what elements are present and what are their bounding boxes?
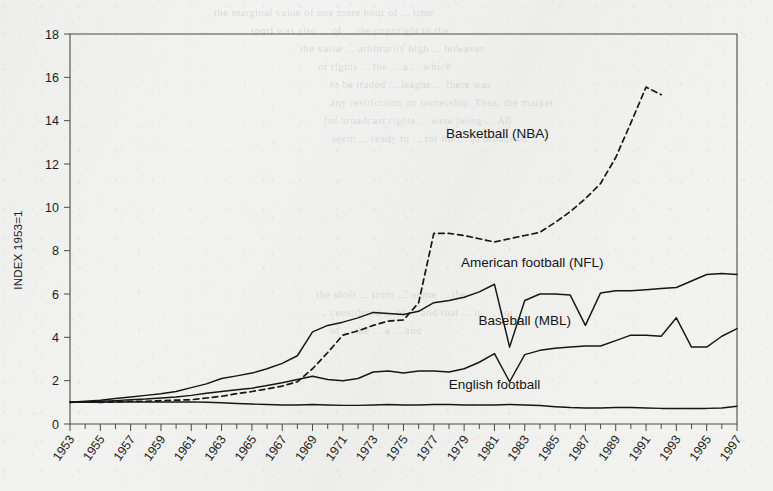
x-tick-label-1987: 1987 [565, 433, 592, 464]
x-tick-label-1977: 1977 [414, 433, 441, 464]
x-tick-label-1953: 1953 [50, 433, 77, 464]
x-tick-label-1967: 1967 [262, 433, 289, 464]
x-tick-label-1969: 1969 [293, 433, 320, 464]
x-tick-label-1973: 1973 [353, 433, 380, 464]
x-tick-label-1979: 1979 [444, 433, 471, 464]
x-tick-label-1983: 1983 [505, 433, 532, 464]
chart-page: the marginal value of one more hour of .… [0, 0, 773, 491]
x-tick-label-1965: 1965 [232, 433, 259, 464]
y-tick-label-12: 12 [45, 158, 59, 172]
x-tick-label-1989: 1989 [596, 433, 623, 464]
x-tick-label-1961: 1961 [171, 433, 198, 464]
x-tick-label-1963: 1963 [202, 433, 229, 464]
series-line-basketball-nba [70, 87, 661, 402]
x-tick-label-1981: 1981 [474, 433, 501, 464]
series-label-baseball-mbl: Baseball (MBL) [479, 313, 571, 328]
y-axis-title: INDEX 1953=1 [12, 210, 24, 289]
x-tick-label-1991: 1991 [626, 433, 653, 464]
y-tick-label-6: 6 [52, 288, 59, 302]
x-tick-label-1993: 1993 [656, 433, 683, 464]
data-series-group [70, 87, 737, 408]
x-axis: 1953195519571959196119631965196719691971… [50, 424, 744, 464]
series-line-baseball-mbl [70, 318, 737, 403]
x-tick-label-1955: 1955 [80, 433, 107, 464]
y-tick-label-14: 14 [45, 114, 59, 128]
x-tick-label-1975: 1975 [384, 433, 411, 464]
series-label-basketball-nba: Basketball (NBA) [446, 126, 549, 141]
x-tick-label-1997: 1997 [717, 433, 744, 464]
x-tick-label-1959: 1959 [141, 433, 168, 464]
plot-frame [70, 34, 737, 424]
y-tick-label-10: 10 [45, 201, 59, 215]
y-tick-label-8: 8 [52, 244, 59, 258]
x-tick-label-1971: 1971 [323, 433, 350, 464]
series-line-american-football-nfl [70, 273, 737, 402]
y-tick-label-4: 4 [52, 331, 59, 345]
y-tick-label-18: 18 [45, 28, 59, 42]
y-axis: 024681012141618 [45, 28, 70, 432]
x-tick-label-1957: 1957 [111, 433, 138, 464]
series-label-english-football: English football [449, 377, 541, 392]
series-label-group: Basketball (NBA)American football (NFL)B… [446, 126, 604, 392]
series-line-english-football [70, 402, 737, 409]
y-tick-label-2: 2 [52, 374, 59, 388]
y-tick-label-0: 0 [52, 418, 59, 432]
x-tick-label-1985: 1985 [535, 433, 562, 464]
y-tick-label-16: 16 [45, 71, 59, 85]
series-label-american-football-nfl: American football (NFL) [461, 255, 604, 270]
sports-revenue-index-chart: 024681012141618 195319551957195919611963… [0, 0, 773, 491]
x-tick-label-1995: 1995 [687, 433, 714, 464]
